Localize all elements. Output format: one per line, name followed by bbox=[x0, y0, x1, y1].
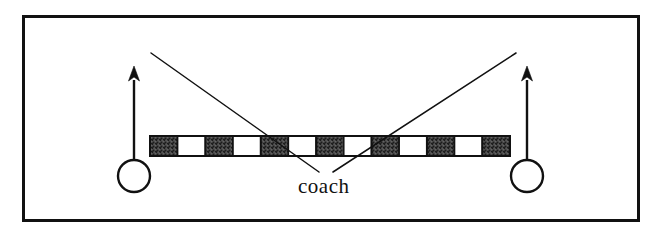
player-right-arrow-head bbox=[522, 66, 533, 81]
player-left-circle bbox=[118, 160, 150, 192]
bar-segment-dark bbox=[372, 136, 400, 156]
bar-segment-dark bbox=[427, 136, 455, 156]
bar-segment-dark bbox=[482, 136, 510, 156]
bar-segment-light bbox=[344, 136, 372, 156]
bar-segment-light bbox=[399, 136, 427, 156]
player-left-arrow-head bbox=[129, 66, 140, 81]
coach-sightline-diagram: coach bbox=[0, 0, 662, 238]
player-right-circle bbox=[511, 160, 543, 192]
bar-segment-dark bbox=[205, 136, 233, 156]
segmented-bar bbox=[150, 136, 510, 156]
bar-segment-light bbox=[233, 136, 261, 156]
diagram-canvas bbox=[0, 0, 662, 238]
bar-segment-dark bbox=[316, 136, 344, 156]
coach-label: coach bbox=[298, 176, 349, 197]
bar-segment-dark bbox=[150, 136, 178, 156]
bar-segment-dark bbox=[261, 136, 289, 156]
bar-segment-light bbox=[455, 136, 483, 156]
bar-segment-light bbox=[178, 136, 206, 156]
